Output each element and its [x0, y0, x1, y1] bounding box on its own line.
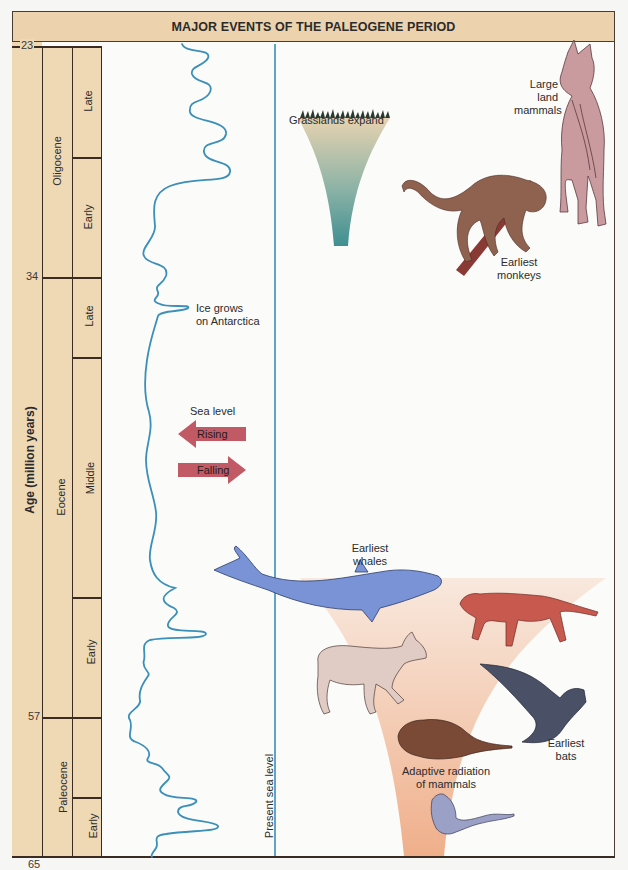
grey-mouse-illustration: [431, 794, 514, 834]
falling-label: Falling: [197, 464, 229, 476]
diagram-graphics: [0, 0, 628, 870]
bats-line-2: bats: [541, 750, 591, 763]
large-mammals-line-1: Large: [514, 78, 558, 91]
earliest-bats-label: Earliest bats: [541, 737, 591, 763]
monkeys-line-2: monkeys: [494, 269, 544, 282]
monkeys-line-1: Earliest: [494, 256, 544, 269]
radiation-line-2: of mammals: [396, 778, 496, 791]
ice-line-1: Ice grows: [196, 302, 260, 315]
earliest-whales-label: Earliest whales: [345, 542, 395, 568]
adaptive-radiation-label: Adaptive radiation of mammals: [396, 765, 496, 791]
grasslands-label: Grasslands expand: [289, 114, 384, 127]
sea-level-legend-title: Sea level: [190, 405, 235, 418]
whales-line-1: Earliest: [345, 542, 395, 555]
grasslands-wedge: [298, 118, 390, 246]
radiation-line-1: Adaptive radiation: [396, 765, 496, 778]
ice-line-2: on Antarctica: [196, 315, 260, 328]
large-mammals-line-3: mammals: [514, 104, 558, 117]
large-mammals-line-2: land: [514, 91, 558, 104]
sea-level-curve: [129, 44, 230, 857]
present-sea-level-label: Present sea level: [263, 754, 275, 838]
large-land-mammal-illustration: [560, 40, 606, 226]
rising-label: Rising: [197, 428, 228, 440]
earliest-monkeys-label: Earliest monkeys: [494, 256, 544, 282]
whales-line-2: whales: [345, 555, 395, 568]
large-land-mammals-label: Large land mammals: [514, 78, 558, 117]
ice-grows-annotation: Ice grows on Antarctica: [196, 302, 260, 328]
earliest-bats-illustration: [480, 664, 586, 743]
brown-rodent-illustration: [398, 720, 512, 760]
bats-line-1: Earliest: [541, 737, 591, 750]
